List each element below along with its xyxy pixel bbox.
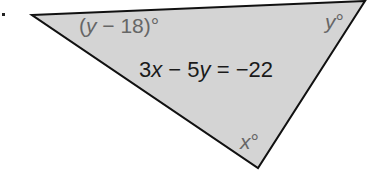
coef: 3 (139, 57, 151, 82)
equation: 3x − 5y = −22 (139, 57, 273, 83)
var-x: x (151, 57, 162, 82)
degree: ° (251, 130, 259, 153)
triangle-figure (0, 0, 369, 175)
paren: ( (79, 14, 86, 37)
angle-label-bottom: x° (240, 130, 259, 154)
angle-expr: − 18)° (97, 14, 160, 37)
rhs: = −22 (211, 57, 273, 82)
angle-label-left: (y − 18)° (79, 14, 159, 38)
bullet-dot (2, 13, 5, 16)
var-x: x (240, 130, 251, 153)
degree: ° (336, 10, 344, 33)
var-y: y (86, 14, 97, 37)
op: − 5 (162, 57, 199, 82)
var-y: y (325, 10, 336, 33)
var-y: y (200, 57, 211, 82)
angle-label-top-right: y° (325, 10, 344, 34)
